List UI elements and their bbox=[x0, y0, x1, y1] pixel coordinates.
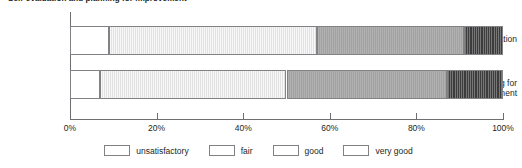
bar-segment-unsatisfactory[interactable] bbox=[70, 70, 100, 99]
x-tick-mark bbox=[416, 113, 417, 119]
bar-segment-very-good[interactable] bbox=[447, 70, 503, 99]
x-tick-mark bbox=[70, 113, 71, 119]
bar-segment-very-good[interactable] bbox=[464, 26, 503, 55]
x-tick-label: 100% bbox=[483, 123, 522, 133]
chart-title: Self-evaluation and planning for improve… bbox=[8, 0, 368, 4]
bar-segment-fair[interactable] bbox=[100, 70, 286, 99]
x-tick-label: 0% bbox=[50, 123, 90, 133]
x-tick-mark bbox=[503, 113, 504, 119]
bar-segment-fair[interactable] bbox=[109, 26, 317, 55]
legend-swatch-icon bbox=[104, 145, 130, 156]
legend-label: good bbox=[305, 146, 324, 156]
x-tick-label: 20% bbox=[137, 123, 177, 133]
legend-item-good[interactable]: good bbox=[273, 145, 324, 156]
x-axis-line bbox=[70, 119, 504, 120]
legend-label: very good bbox=[375, 146, 412, 156]
x-tick-mark bbox=[157, 113, 158, 119]
bar-segment-good[interactable] bbox=[317, 26, 464, 55]
legend-swatch-icon bbox=[273, 145, 299, 156]
legend-item-very-good[interactable]: very good bbox=[343, 145, 412, 156]
x-tick-label: 40% bbox=[223, 123, 263, 133]
x-tick-label: 60% bbox=[310, 123, 350, 133]
x-tick-label: 80% bbox=[396, 123, 436, 133]
x-tick-mark bbox=[330, 113, 331, 119]
legend-item-unsatisfactory[interactable]: unsatisfactory bbox=[104, 145, 188, 156]
bar-segment-unsatisfactory[interactable] bbox=[70, 26, 109, 55]
legend-item-fair[interactable]: fair bbox=[209, 145, 253, 156]
legend: unsatisfactoryfairgoodvery good bbox=[0, 145, 517, 156]
x-tick-mark bbox=[243, 113, 244, 119]
chart-title-text: Self-evaluation and planning for improve… bbox=[8, 0, 368, 4]
legend-label: fair bbox=[241, 146, 253, 156]
legend-swatch-icon bbox=[209, 145, 235, 156]
legend-label: unsatisfactory bbox=[136, 146, 188, 156]
legend-swatch-icon bbox=[343, 145, 369, 156]
bar-segment-good[interactable] bbox=[287, 70, 447, 99]
